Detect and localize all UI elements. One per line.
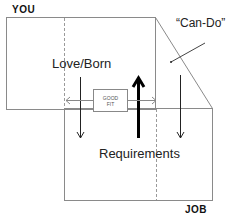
can-do-triangle xyxy=(156,18,213,109)
can-do-label: “Can-Do” xyxy=(176,16,225,30)
good-fit-line2: FIT xyxy=(94,101,127,107)
love-born-label: Love/Born xyxy=(52,56,111,71)
good-fit-box: GOOD FIT xyxy=(93,89,128,112)
can-do-down-arrow xyxy=(177,75,184,138)
requirements-label: Requirements xyxy=(99,146,180,161)
you-label: YOU xyxy=(12,4,35,15)
love-born-down-arrow xyxy=(77,77,84,138)
job-label: JOB xyxy=(185,204,207,215)
can-do-leader xyxy=(170,43,205,63)
